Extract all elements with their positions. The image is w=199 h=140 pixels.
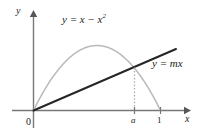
- y-axis-arrow-icon: [30, 10, 37, 17]
- y-axis-label: y: [16, 6, 20, 16]
- parabola-exponent: 2: [103, 12, 107, 20]
- parabola-equation-text: y = x − x: [62, 13, 103, 25]
- line-equation-label: y = mx: [152, 58, 183, 69]
- x-tick-label-one: 1: [157, 116, 162, 125]
- parabola-equation-label: y = x − x2: [62, 13, 106, 25]
- x-axis-label: x: [185, 114, 189, 124]
- figure-container: y = x − x2 y = mx y x 0 a 1: [0, 0, 199, 140]
- origin-label: 0: [26, 117, 31, 127]
- x-tick-label-a: a: [131, 116, 136, 125]
- parabola-curve: [34, 46, 161, 111]
